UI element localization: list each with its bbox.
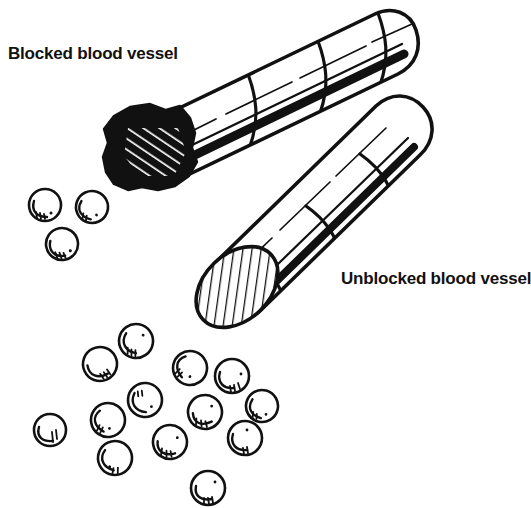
blood-cell [29, 189, 61, 221]
blood-cell [191, 471, 225, 505]
blood-cell [184, 391, 226, 433]
illustration-canvas: Blocked blood vessel Unblocked blood ves… [0, 0, 531, 508]
unblocked-vessel-label: Unblocked blood vessel [341, 270, 531, 287]
blood-cell-group-upper [29, 186, 113, 262]
blocked-vessel-label: Blocked blood vessel [8, 45, 178, 62]
blood-cell [242, 386, 281, 425]
blood-cell [215, 359, 249, 393]
blood-vessel-diagram [0, 0, 531, 508]
blood-cell [116, 321, 155, 360]
blood-cell [71, 186, 112, 227]
blood-cell [228, 421, 262, 455]
blood-cell [43, 225, 80, 262]
blood-cell [127, 382, 164, 419]
blood-cell [34, 414, 66, 446]
blood-cell [84, 396, 131, 443]
blood-cell [93, 436, 137, 480]
blood-cell-group-lower [34, 321, 282, 505]
blood-cell [166, 344, 213, 391]
blood-cell [77, 341, 122, 386]
blood-clot [103, 104, 197, 190]
blood-cell [150, 422, 189, 461]
